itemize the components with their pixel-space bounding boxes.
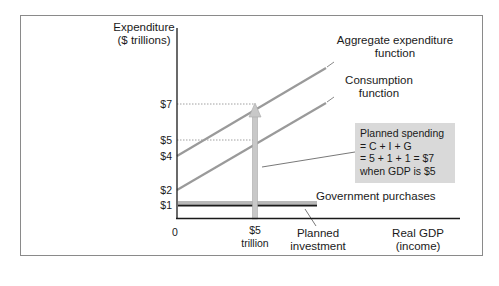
x-tick-unit: trillion (230, 237, 280, 250)
planned-investment-label: Planned investment (283, 227, 353, 253)
aggregate-label-line1: Aggregate expenditure (325, 34, 465, 47)
spending-arrow-head (249, 103, 261, 117)
x-tick-5: $5 trillion (230, 224, 280, 249)
aggregate-leader (327, 62, 334, 67)
callout-line3: = 5 + 1 + 1 = $7 (360, 152, 450, 165)
consumption-label: Consumption function (334, 74, 424, 100)
planned-investment-label-line1: Planned (283, 227, 353, 240)
callout-line4: when GDP is $5 (360, 165, 450, 178)
y-axis-title-line2: ($ trillions) (104, 34, 184, 47)
aggregate-expenditure-label: Aggregate expenditure function (325, 34, 465, 60)
y-tick-1: $1 (150, 199, 172, 211)
y-axis-title: Expenditure ($ trillions) (104, 21, 184, 47)
y-tick-4: $4 (150, 150, 172, 162)
aggregate-label-line2: function (325, 47, 465, 60)
x-axis-title: Real GDP (income) (385, 227, 451, 253)
x-tick-value: $5 (230, 224, 280, 237)
spending-arrow-shaft (253, 116, 258, 219)
y-axis-title-line1: Expenditure (104, 21, 184, 34)
y-tick-7: $7 (150, 98, 172, 110)
consumption-label-line1: Consumption (334, 74, 424, 87)
investment-leader (305, 209, 316, 226)
government-purchases-label: Government purchases (316, 190, 436, 203)
planned-spending-callout: Planned spending = C + I + G = 5 + 1 + 1… (355, 123, 455, 183)
origin-label: 0 (172, 226, 178, 239)
planned-investment-label-line2: investment (283, 240, 353, 253)
callout-line1: Planned spending (360, 127, 450, 140)
x-axis-title-line2: (income) (385, 240, 451, 253)
y-tick-5: $5 (150, 134, 172, 146)
consumption-label-line2: function (334, 87, 424, 100)
y-tick-2: $2 (150, 184, 172, 196)
x-axis-title-line1: Real GDP (385, 227, 451, 240)
callout-line2: = C + I + G (360, 140, 450, 153)
callout-leader (262, 152, 355, 167)
consumption-leader (327, 97, 334, 102)
